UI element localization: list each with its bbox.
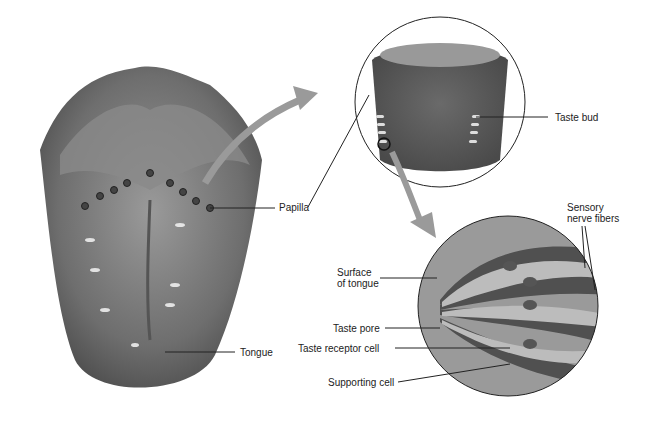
label-taste-pore: Taste pore [333, 323, 380, 334]
tongue-illustration [40, 66, 262, 387]
label-surface-line2: of tongue [337, 278, 379, 289]
taste-bud-detail-circle [410, 210, 610, 410]
label-sensory-nerve-fibers: Sensory nerve fibers [567, 202, 619, 224]
label-supporting-cell: Supporting cell [328, 377, 394, 388]
label-sensory-line1: Sensory [567, 202, 604, 213]
label-papilla: Papilla [279, 202, 309, 213]
label-taste-bud: Taste bud [555, 112, 598, 123]
label-taste-receptor-cell: Taste receptor cell [298, 343, 379, 354]
label-surface-line1: Surface [337, 267, 371, 278]
papilla-detail-circle [340, 17, 540, 200]
diagram-canvas [0, 0, 652, 427]
label-surface-of-tongue: Surface of tongue [337, 267, 379, 289]
label-tongue: Tongue [240, 347, 273, 358]
label-sensory-line2: nerve fibers [567, 213, 619, 224]
